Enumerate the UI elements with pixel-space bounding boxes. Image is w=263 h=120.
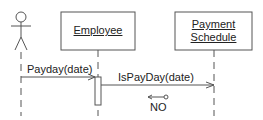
employee-object-label: Employee (61, 24, 135, 37)
payment-schedule-object-label: Payment Schedule (175, 18, 252, 44)
employee-activation-bar (95, 77, 101, 105)
ispayday-message-label: IsPayDay(date) (118, 71, 194, 83)
return-data-couple-icon (148, 95, 168, 99)
actor-stick-figure-icon (11, 12, 31, 50)
payment-schedule-label-line1: Payment (192, 18, 235, 30)
return-no-label: NO (150, 101, 167, 113)
payday-message-label: Payday(date) (27, 63, 92, 75)
payment-schedule-label-line2: Schedule (191, 31, 237, 43)
